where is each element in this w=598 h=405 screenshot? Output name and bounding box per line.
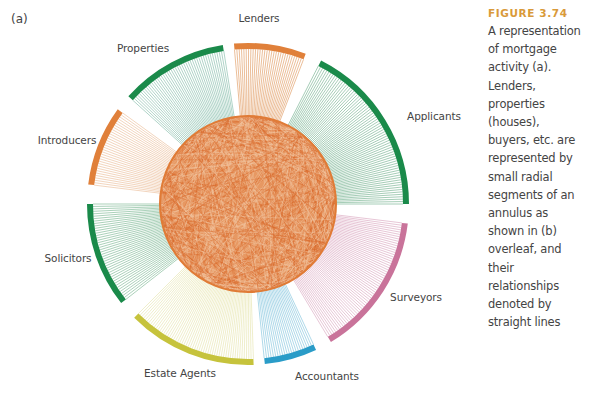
caption-line: Lenders,: [488, 77, 598, 95]
mortgage-activity-diagram: (a) LendersApplicantsSurveyorsAccountant…: [0, 0, 480, 405]
label-properties: Properties: [117, 42, 169, 54]
caption-line: overleaf, and: [488, 240, 598, 258]
caption-line: A representation: [488, 22, 598, 40]
caption-line: straight lines: [488, 313, 598, 331]
caption-line: annulus as: [488, 204, 598, 222]
label-lenders: Lenders: [239, 12, 280, 24]
caption-line: represented by: [488, 149, 598, 167]
caption-line: denoted by: [488, 295, 598, 313]
label-accountants: Accountants: [295, 370, 359, 382]
caption-line: activity (a).: [488, 58, 598, 76]
caption-line: (houses),: [488, 113, 598, 131]
label-introducers: Introducers: [38, 134, 97, 146]
caption-title: FIGURE 3.74: [488, 6, 598, 20]
radial-annulus-graph: [0, 0, 480, 405]
segment-lenders: [234, 46, 304, 124]
caption-line: small radial: [488, 168, 598, 186]
caption-line: buyers, etc. are: [488, 131, 598, 149]
caption-body: A representationof mortgageactivity (a).…: [488, 22, 598, 331]
caption-line: relationships: [488, 277, 598, 295]
figure-caption: FIGURE 3.74 A representationof mortgagea…: [488, 6, 598, 331]
label-surveyors: Surveyors: [390, 291, 442, 303]
label-solicitors: Solicitors: [45, 252, 92, 264]
segment-arc: [131, 48, 224, 98]
caption-line: of mortgage: [488, 40, 598, 58]
relationship-lines-hub: [160, 116, 336, 292]
caption-line: properties: [488, 95, 598, 113]
caption-line: shown in (b): [488, 222, 598, 240]
panel-label: (a): [11, 12, 28, 26]
label-estate-agents: Estate Agents: [144, 367, 216, 379]
caption-line: their: [488, 259, 598, 277]
caption-line: segments of an: [488, 186, 598, 204]
label-applicants: Applicants: [407, 110, 461, 122]
